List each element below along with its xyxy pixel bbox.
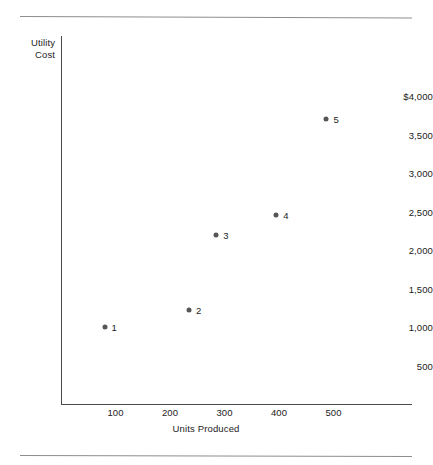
x-axis-line	[61, 404, 412, 405]
data-point-marker	[187, 307, 192, 312]
y-axis-title-line-1: Utility	[0, 37, 55, 49]
y-tick-label: 500	[378, 360, 433, 371]
data-point-label: 5	[333, 114, 338, 125]
y-axis-title: Utility Cost	[0, 37, 55, 60]
y-tick-label: $4,000	[378, 91, 433, 102]
data-point-marker	[102, 325, 107, 330]
y-tick-label: 3,000	[378, 168, 433, 179]
data-point-label: 1	[112, 322, 117, 333]
x-axis-title: Units Produced	[61, 423, 351, 434]
data-point-marker	[324, 117, 329, 122]
y-axis-line	[61, 36, 62, 405]
data-point-marker	[274, 213, 279, 218]
y-tick-label: 1,500	[378, 283, 433, 294]
y-tick-label: 3,500	[378, 129, 433, 140]
x-tick-label: 100	[96, 407, 136, 418]
y-axis-title-line-2: Cost	[0, 49, 55, 61]
x-tick-label: 200	[150, 407, 190, 418]
y-tick-label: 2,000	[378, 245, 433, 256]
x-tick-label: 500	[314, 407, 354, 418]
chart-page: Utility Cost 5001,0001,5002,0002,5003,00…	[0, 0, 433, 465]
x-tick-label: 400	[259, 407, 299, 418]
data-point-label: 3	[223, 229, 228, 240]
y-tick-label: 1,000	[378, 322, 433, 333]
data-point-label: 2	[196, 304, 201, 315]
data-point-marker	[214, 232, 219, 237]
data-point-label: 4	[283, 210, 288, 221]
y-tick-label: 2,500	[378, 206, 433, 217]
x-tick-label: 300	[205, 407, 245, 418]
scatter-plot: Utility Cost 5001,0001,5002,0002,5003,00…	[0, 0, 433, 465]
